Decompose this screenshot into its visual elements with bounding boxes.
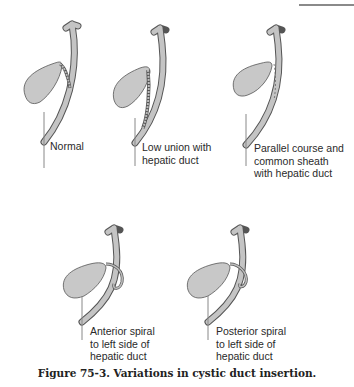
label-anterior-spiral: Anterior spiral to left side of hepatic … <box>90 325 155 363</box>
label-posterior-spiral: Posterior spiral to left side of hepatic… <box>216 325 286 363</box>
panel-posterior-spiral: Posterior spiral to left side of hepatic… <box>180 200 310 365</box>
label-normal: Normal <box>50 140 84 153</box>
figure-caption: Figure 75-3. Variations in cystic duct i… <box>0 367 354 379</box>
label-low-union: Low union with hepatic duct <box>142 141 211 166</box>
panel-normal: Normal <box>0 0 120 180</box>
biliary-tree-normal-illustration <box>0 0 120 180</box>
label-parallel-course: Parallel course and common sheath with h… <box>254 142 344 180</box>
panel-low-union: Low union with hepatic duct <box>110 0 240 180</box>
panel-anterior-spiral: Anterior spiral to left side of hepatic … <box>60 200 190 365</box>
panel-parallel-course: Parallel course and common sheath with h… <box>230 0 354 200</box>
